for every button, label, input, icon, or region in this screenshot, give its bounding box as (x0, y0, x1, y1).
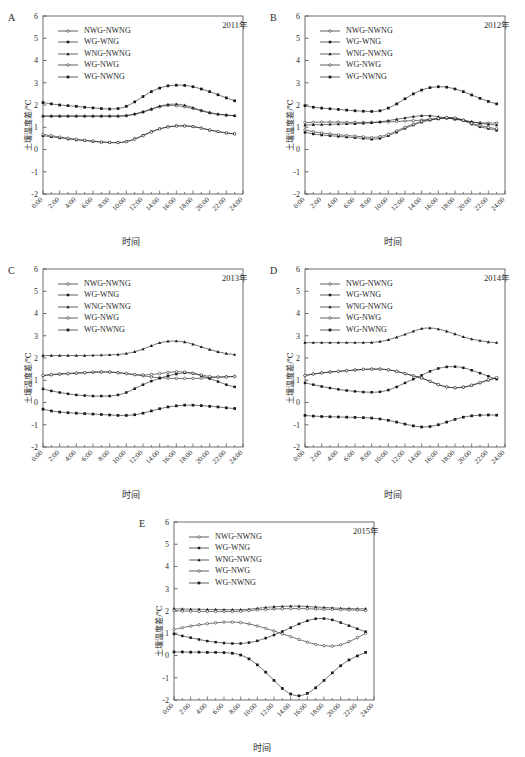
svg-text:-1: -1 (31, 168, 38, 177)
svg-text:8:00: 8:00 (97, 195, 112, 210)
legend-label: WNG-NWNG (346, 49, 393, 59)
svg-text:4:00: 4:00 (63, 195, 78, 210)
legend-marker-icon (319, 72, 341, 82)
svg-text:14:00: 14:00 (275, 701, 292, 718)
legend-label: NWG-NWNG (346, 26, 393, 36)
legend-label: NWG-NWNG (215, 532, 262, 542)
svg-text:5: 5 (296, 34, 300, 43)
svg-text:24:00: 24:00 (227, 195, 244, 212)
legend-marker-icon (57, 290, 79, 300)
svg-text:2: 2 (296, 354, 300, 363)
svg-text:2: 2 (34, 101, 38, 110)
svg-text:5: 5 (165, 540, 169, 549)
legend-marker-icon (319, 279, 341, 289)
svg-text:4: 4 (34, 56, 38, 65)
svg-text:16:00: 16:00 (292, 701, 309, 718)
legend-marker-icon (319, 325, 341, 335)
svg-text:0: 0 (296, 145, 300, 154)
panel-c: C 土壤温度差/℃ 2013年 -2-101234560:002:004:006… (0, 253, 262, 503)
legend-marker-icon (57, 37, 79, 47)
svg-text:18:00: 18:00 (177, 195, 194, 212)
legend-item: NWG-NWNG (319, 25, 393, 37)
svg-text:3: 3 (296, 79, 300, 88)
svg-text:24:00: 24:00 (227, 448, 244, 465)
svg-text:20:00: 20:00 (194, 195, 211, 212)
legend-marker-icon (57, 313, 79, 323)
legend-item: WNG-NWNG (319, 48, 393, 60)
legend-marker-icon (57, 60, 79, 70)
legend-marker-icon (188, 555, 210, 565)
legend-marker-icon (57, 279, 79, 289)
legend-item: WNG-NWNG (188, 554, 262, 566)
legend-item: WG-NWG (188, 566, 262, 578)
svg-text:6: 6 (34, 265, 38, 274)
figure-soil-temperature-difference: A 土壤温度差/℃ 2011年 -2-101234560:002:004:006… (0, 0, 525, 757)
svg-text:24:00: 24:00 (489, 195, 506, 212)
svg-text:6: 6 (34, 12, 38, 21)
legend-label: WG-WNG (215, 543, 250, 553)
svg-text:22:00: 22:00 (342, 701, 359, 718)
panel-d: D 土壤温度差/℃ 2014年 -2-101234560:002:004:006… (262, 253, 524, 503)
svg-text:4: 4 (296, 309, 300, 318)
legend-label: WG-WNG (346, 290, 381, 300)
legend-item: WG-NWG (57, 313, 131, 325)
legend-item: WG-WNG (57, 37, 131, 49)
svg-text:6:00: 6:00 (342, 195, 357, 210)
plot-area-e: -2-101234560:002:004:006:008:0010:0012:0… (131, 506, 393, 756)
svg-text:5: 5 (296, 287, 300, 296)
legend-marker-icon (57, 72, 79, 82)
legend-e: NWG-NWNGWG-WNGWNG-NWNGWG-NWGWG-NWNG (188, 531, 262, 589)
svg-text:22:00: 22:00 (211, 448, 228, 465)
svg-text:10:00: 10:00 (373, 195, 390, 212)
svg-text:6:00: 6:00 (211, 701, 226, 716)
legend-marker-icon (188, 532, 210, 542)
svg-text:16:00: 16:00 (423, 448, 440, 465)
x-axis-label: 时间 (0, 235, 262, 248)
legend-label: WNG-NWNG (346, 302, 393, 312)
svg-text:-1: -1 (293, 421, 300, 430)
svg-text:12:00: 12:00 (389, 195, 406, 212)
svg-text:2:00: 2:00 (309, 195, 324, 210)
legend-item: NWG-NWNG (319, 278, 393, 290)
panel-e: E 土壤温度差/℃ 2015年 -2-101234560:002:004:006… (131, 506, 393, 756)
legend-marker-icon (57, 49, 79, 59)
svg-text:4: 4 (34, 309, 38, 318)
svg-text:22:00: 22:00 (473, 448, 490, 465)
svg-text:4:00: 4:00 (63, 448, 78, 463)
svg-text:12:00: 12:00 (389, 448, 406, 465)
svg-text:24:00: 24:00 (489, 448, 506, 465)
legend-label: WG-NWG (346, 313, 381, 323)
legend-item: WNG-NWNG (57, 301, 131, 313)
svg-text:2: 2 (165, 607, 169, 616)
svg-text:3: 3 (165, 585, 169, 594)
svg-text:2:00: 2:00 (47, 448, 62, 463)
plot-area-d: -2-101234560:002:004:006:008:0010:0012:0… (262, 253, 524, 503)
legend-marker-icon (57, 325, 79, 335)
legend-item: WG-WNG (57, 290, 131, 302)
svg-text:10:00: 10:00 (373, 448, 390, 465)
legend-label: WG-NWG (84, 313, 119, 323)
svg-text:2:00: 2:00 (178, 701, 193, 716)
svg-text:4: 4 (296, 56, 300, 65)
svg-text:24:00: 24:00 (358, 701, 375, 718)
svg-text:14:00: 14:00 (406, 195, 423, 212)
legend-label: WG-NWNG (346, 72, 387, 82)
svg-text:18:00: 18:00 (308, 701, 325, 718)
svg-text:10:00: 10:00 (111, 195, 128, 212)
legend-item: NWG-NWNG (188, 531, 262, 543)
plot-area-c: -2-101234560:002:004:006:008:0010:0012:0… (0, 253, 262, 503)
panel-a: A 土壤温度差/℃ 2011年 -2-101234560:002:004:006… (0, 0, 262, 250)
svg-text:4:00: 4:00 (325, 195, 340, 210)
svg-text:8:00: 8:00 (97, 448, 112, 463)
svg-text:0: 0 (34, 145, 38, 154)
svg-text:10:00: 10:00 (111, 448, 128, 465)
legend-label: WG-NWNG (346, 325, 387, 335)
svg-text:-1: -1 (162, 674, 169, 683)
legend-label: WNG-NWNG (84, 302, 131, 312)
legend-item: WG-NWG (319, 60, 393, 72)
legend-item: WG-WNG (188, 543, 262, 555)
legend-c: NWG-NWNGWG-WNGWNG-NWNGWG-NWGWG-NWNG (57, 278, 131, 336)
svg-text:16:00: 16:00 (161, 195, 178, 212)
svg-text:14:00: 14:00 (144, 195, 161, 212)
svg-text:-1: -1 (31, 421, 38, 430)
